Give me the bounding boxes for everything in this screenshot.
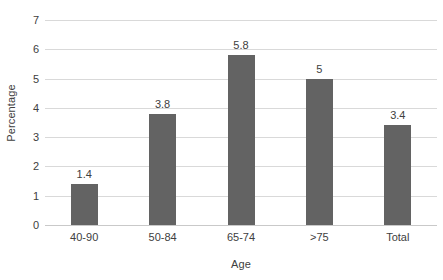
y-axis-tick-label: 3 bbox=[13, 132, 39, 143]
y-axis-tick-label: 0 bbox=[13, 220, 39, 231]
bar bbox=[384, 125, 411, 225]
y-axis-tick-label: 6 bbox=[13, 44, 39, 55]
bar-value-label: 5.8 bbox=[216, 40, 266, 51]
bar bbox=[228, 55, 255, 225]
gridline bbox=[45, 225, 437, 226]
y-axis-tick-label: 4 bbox=[13, 102, 39, 113]
x-axis-category-label: >75 bbox=[279, 232, 359, 243]
y-axis-tick-labels: 01234567 bbox=[11, 20, 39, 225]
x-axis-category-label: Total bbox=[358, 232, 438, 243]
bar-value-label: 3.4 bbox=[373, 110, 423, 121]
x-axis-category-label: 40-90 bbox=[44, 232, 124, 243]
bar bbox=[306, 79, 333, 225]
x-axis-title-label: Age bbox=[231, 258, 251, 270]
bar-chart: Percentage 01234567 Age 1.440-903.850-84… bbox=[0, 0, 443, 280]
bar-value-label: 3.8 bbox=[138, 99, 188, 110]
bar-value-label: 5 bbox=[294, 64, 344, 75]
y-axis-tick-label: 7 bbox=[13, 15, 39, 26]
x-axis-category-label: 65-74 bbox=[201, 232, 281, 243]
bar bbox=[71, 184, 98, 225]
x-axis-title: Age bbox=[45, 258, 437, 270]
y-axis-tick-label: 5 bbox=[13, 73, 39, 84]
gridline bbox=[45, 20, 437, 21]
bar-value-label: 1.4 bbox=[59, 169, 109, 180]
y-axis-tick-label: 2 bbox=[13, 161, 39, 172]
bar bbox=[149, 114, 176, 225]
y-axis-tick-label: 1 bbox=[13, 190, 39, 201]
x-axis-category-label: 50-84 bbox=[123, 232, 203, 243]
